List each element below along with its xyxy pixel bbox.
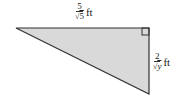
top-side-label: 5 √5 ft: [75, 2, 93, 21]
right-side-label: 2 √y ft: [153, 52, 170, 71]
right-triangle: [16, 28, 149, 94]
